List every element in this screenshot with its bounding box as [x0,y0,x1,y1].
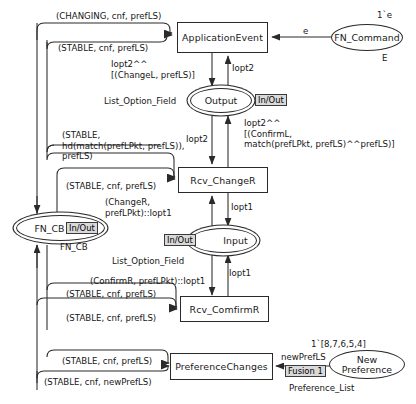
arclabel-stable-hd: (STABLE, hd(match(prefLPkt, prefLS)), pr… [62,130,184,162]
place-fn-cb-label: FN_CB [34,223,64,234]
arclabel-lopt1-b: Iopt1 [229,268,251,279]
transition-preference-changes[interactable]: PreferenceChanges [170,353,273,380]
place-input-label: Input [223,235,247,246]
place-output[interactable]: Output [190,88,252,113]
arclabel-changing: (CHANGING, cnf, prefLS) [56,11,161,22]
arc-stable-hd-corner [47,145,54,152]
tag-fusion[interactable]: Fusion 1 [285,365,326,377]
place-new-preference-label: New Preference [342,355,392,375]
place-input[interactable]: Input [190,228,257,253]
place-new-preference[interactable]: New Preference [329,350,405,379]
marking-new-preference: 1`[8,7,6,5,4] [311,339,366,349]
arclabel-changer-lopt1: (ChangeR, prefLPkt)::Iopt1 [105,197,172,218]
transition-preference-changes-label: PreferenceChanges [175,361,268,372]
arc-stable-confirm-b [37,298,177,309]
colorset-output: List_Option_Field [104,96,176,106]
marking-fn-command: 1`e [377,10,392,20]
arclabel-lopt1-a: Iopt1 [231,202,253,213]
transition-application-event-label: ApplicationEvent [182,32,263,43]
tag-fn-cb-inout[interactable]: In/Out [66,222,98,234]
colorset-new-preference: Preference_List [289,383,354,393]
arclabel-e: e [303,26,308,37]
place-fn-command-label: FN_Command [334,32,399,43]
transition-rcv-changer-label: Rcv_ChangeR [190,175,255,186]
tag-output-inout[interactable]: In/Out [255,94,287,106]
arclabel-lopt2-a: Iopt2 [232,63,254,74]
arclabel-stable-top: (STABLE, cnf, prefLS) [58,43,148,54]
place-output-label: Output [205,95,238,106]
diagram-canvas: ApplicationEvent FN_Command 1`e E Output… [0,0,416,404]
arclabel-lopt2-b: Iopt2 [186,134,208,145]
arclabel-stable-pref: (STABLE, cnf, prefLS) [62,356,152,367]
transition-rcv-comfirmr[interactable]: Rcv_ComfirmR [180,296,269,322]
transition-rcv-comfirmr-label: Rcv_ComfirmR [190,304,260,315]
arc-stable-changer [57,168,175,179]
transition-application-event[interactable]: ApplicationEvent [177,22,268,53]
arclabel-newpreflis: newPrefLS [281,352,326,363]
arclabel-stable-confirm-a: (STABLE, cnf, prefLS) [66,289,156,300]
arclabel-lopt2-changel: Iopt2^^ [(ChangeL, prefLS)] [111,59,195,80]
place-fn-command[interactable]: FN_Command [331,24,403,51]
arclabel-stable-confirm-b: (STABLE, cnf, prefLS) [66,313,156,324]
arclabel-lopt2-confirml: Iopt2^^ [(ConfirmL, match(prefLPkt, pref… [244,118,395,150]
colorset-fn-command: E [382,53,387,63]
colorset-fn-cb: FN_CB [60,242,88,252]
arc-changing [37,23,172,40]
colorset-input: List_Option_Field [112,256,184,266]
transition-rcv-changer[interactable]: Rcv_ChangeR [178,167,268,193]
arclabel-stable-changer: (STABLE, cnf, prefLS) [66,181,156,192]
arclabel-confirmr-lopt1: (ConfirmR, prefLPkt)::Iopt1 [90,276,205,287]
arclabel-stable-newpref: (STABLE, cnf, newPrefLS) [44,377,152,388]
tag-input-inout[interactable]: In/Out [164,234,196,246]
